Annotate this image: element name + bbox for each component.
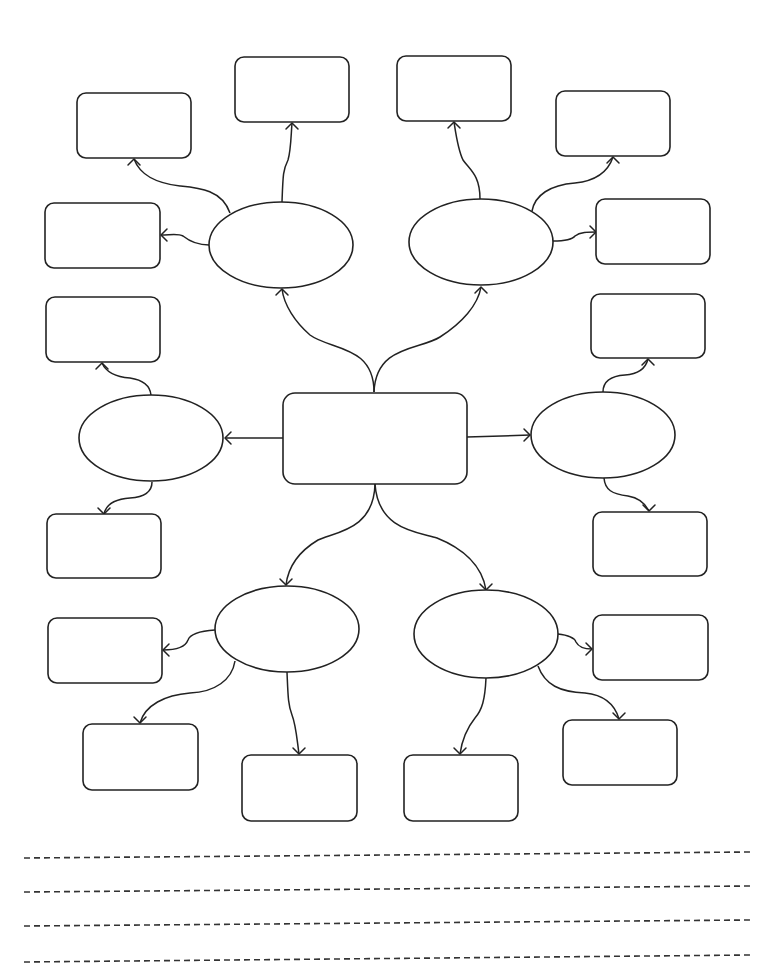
- connector-e_mid_left-to-b_ml_bottom: [98, 482, 152, 514]
- subtopic-ellipse-e-top-left[interactable]: [209, 202, 353, 288]
- box-shape: [77, 93, 191, 158]
- connector-line: [282, 123, 292, 202]
- box-shape: [397, 56, 511, 121]
- detail-box-b-tr-top[interactable]: [397, 56, 511, 121]
- subtopic-ellipse-e-bot-right[interactable]: [414, 590, 558, 678]
- detail-box-b-br-side[interactable]: [593, 615, 708, 680]
- connector-e_top_right-to-b_tr_side: [553, 226, 596, 241]
- subtopic-ellipse-e-bot-left[interactable]: [215, 586, 359, 672]
- arrowhead-icon: [98, 508, 110, 514]
- box-shape: [593, 512, 707, 576]
- box-shape: [47, 514, 161, 578]
- arrowhead-icon: [96, 363, 108, 369]
- connector-line: [104, 482, 152, 514]
- box-shape: [83, 724, 198, 790]
- subtopic-ellipse-e-mid-left[interactable]: [79, 395, 223, 481]
- box-shape: [48, 618, 162, 683]
- connector-line: [282, 289, 374, 392]
- writing-line-1[interactable]: [24, 852, 750, 858]
- ellipse-shape: [531, 392, 675, 478]
- connector-line: [161, 234, 209, 245]
- detail-box-b-tr-side[interactable]: [596, 199, 710, 264]
- connector-e_bot_right-to-b_br_bottom: [454, 678, 486, 754]
- detail-box-b-tl-side[interactable]: [45, 203, 160, 268]
- box-shape: [556, 91, 670, 156]
- ellipse-shape: [414, 590, 558, 678]
- detail-box-b-bl-lower[interactable]: [83, 724, 198, 790]
- detail-box-b-ml-bottom[interactable]: [47, 514, 161, 578]
- connector-center-to-e_bot_right: [375, 484, 492, 590]
- connector-line: [374, 287, 481, 392]
- writing-line-2[interactable]: [24, 886, 750, 892]
- arrowhead-icon: [134, 717, 146, 723]
- box-shape: [404, 755, 518, 821]
- connector-line: [287, 672, 299, 754]
- connector-e_mid_right-to-b_mr_bottom: [604, 478, 655, 511]
- connector-line: [460, 678, 486, 754]
- connector-e_bot_left-to-b_bl_side: [163, 630, 215, 656]
- connector-line: [163, 630, 215, 650]
- box-shape: [596, 199, 710, 264]
- arrowhead-icon: [643, 505, 655, 511]
- detail-box-b-mr-top[interactable]: [591, 294, 705, 358]
- detail-box-b-tl-upper[interactable]: [77, 93, 191, 158]
- connector-e_top_left-to-b_tl_side: [161, 229, 209, 245]
- center-topic-layer: [283, 393, 467, 484]
- connector-e_mid_right-to-b_mr_top: [603, 359, 654, 392]
- mind-map-canvas: [0, 0, 782, 972]
- box-shape: [591, 294, 705, 358]
- central-topic-shape: [283, 393, 467, 484]
- box-shape: [242, 755, 357, 821]
- ellipse-shape: [215, 586, 359, 672]
- connector-line: [286, 484, 375, 585]
- connector-center-to-e_mid_right: [467, 429, 530, 441]
- detail-box-b-br-bottom[interactable]: [404, 755, 518, 821]
- arrowhead-icon: [128, 159, 140, 165]
- box-shape: [235, 57, 349, 122]
- connector-line: [603, 359, 648, 392]
- connector-line: [102, 363, 151, 395]
- subtopic-ellipse-e-top-right[interactable]: [409, 199, 553, 285]
- connector-center-to-e_bot_left: [280, 484, 375, 585]
- connector-line: [375, 484, 486, 590]
- box-shape: [45, 203, 160, 268]
- writing-line-3[interactable]: [24, 920, 750, 926]
- connector-center-to-e_top_left: [276, 289, 374, 392]
- connector-e_bot_left-to-b_bl_bottom: [287, 672, 305, 754]
- ellipse-shape: [79, 395, 223, 481]
- box-shape: [563, 720, 677, 785]
- connector-line: [467, 435, 530, 437]
- connector-line: [553, 232, 596, 241]
- detail-box-b-mr-bottom[interactable]: [593, 512, 707, 576]
- central-topic-box[interactable]: [283, 393, 467, 484]
- detail-box-b-tr-upper[interactable]: [556, 91, 670, 156]
- detail-box-b-tl-top[interactable]: [235, 57, 349, 122]
- subtopic-ellipse-e-mid-right[interactable]: [531, 392, 675, 478]
- arrowhead-icon: [613, 713, 625, 719]
- detail-box-b-bl-side[interactable]: [48, 618, 162, 683]
- connector-center-to-e_mid_left: [225, 432, 283, 444]
- ellipse-shape: [409, 199, 553, 285]
- connector-e_bot_right-to-b_br_side: [558, 634, 592, 655]
- connector-center-to-e_top_right: [374, 287, 487, 392]
- box-shape: [593, 615, 708, 680]
- writing-lines-layer: [24, 852, 750, 962]
- writing-line-4[interactable]: [24, 955, 750, 962]
- arrowhead-icon: [642, 359, 654, 365]
- connector-e_top_right-to-b_tr_top: [448, 122, 480, 199]
- detail-box-b-ml-top[interactable]: [46, 297, 160, 362]
- connector-line: [604, 478, 649, 511]
- box-shape: [46, 297, 160, 362]
- detail-box-b-br-lower[interactable]: [563, 720, 677, 785]
- connector-line: [558, 634, 592, 649]
- detail-box-b-bl-bottom[interactable]: [242, 755, 357, 821]
- arrowhead-icon: [607, 157, 619, 163]
- ellipse-shape: [209, 202, 353, 288]
- connector-e_top_left-to-b_tl_top: [282, 123, 298, 202]
- connector-line: [454, 122, 480, 199]
- connector-e_mid_left-to-b_ml_top: [96, 363, 151, 395]
